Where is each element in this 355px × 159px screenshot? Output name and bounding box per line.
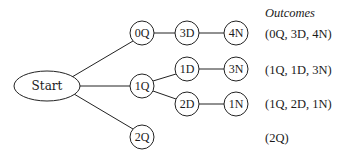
node-1d: 1D (175, 57, 199, 81)
node-3n: 3N (224, 57, 248, 81)
node-1n-label: 1N (229, 97, 244, 111)
node-1q: 1Q (130, 74, 154, 98)
edge-start-2q (74, 94, 133, 129)
outcome-item: (2Q) (265, 131, 289, 145)
node-0q-label: 0Q (135, 26, 150, 40)
node-2q-label: 2Q (135, 130, 150, 144)
node-3d-label: 3D (180, 26, 195, 40)
outcomes-column: Outcomes (0Q, 3D, 4N) (1Q, 1D, 3N) (1Q, … (265, 6, 332, 145)
node-2d-label: 2D (180, 97, 195, 111)
node-start-label: Start (32, 79, 63, 93)
node-4n: 4N (224, 21, 248, 45)
node-1d-label: 1D (180, 62, 195, 76)
edge-start-0q (72, 41, 133, 77)
node-2d: 2D (175, 92, 199, 116)
node-3n-label: 3N (229, 62, 244, 76)
outcome-item: (1Q, 1D, 3N) (265, 63, 332, 77)
outcome-item: (1Q, 2D, 1N) (265, 97, 332, 111)
tree-diagram: Start 0Q 1Q 2Q 3D 1D 2D 4N 3N 1N Outcom (0, 0, 355, 159)
outcomes-header: Outcomes (265, 6, 315, 20)
node-3d: 3D (175, 21, 199, 45)
node-2q: 2Q (130, 125, 154, 149)
outcome-item: (0Q, 3D, 4N) (265, 27, 332, 41)
edge-1q-2d (153, 91, 176, 99)
node-start: Start (14, 71, 80, 101)
node-1n: 1N (224, 92, 248, 116)
node-0q: 0Q (130, 21, 154, 45)
edge-1q-1d (153, 74, 176, 81)
node-1q-label: 1Q (135, 79, 150, 93)
node-4n-label: 4N (229, 26, 244, 40)
